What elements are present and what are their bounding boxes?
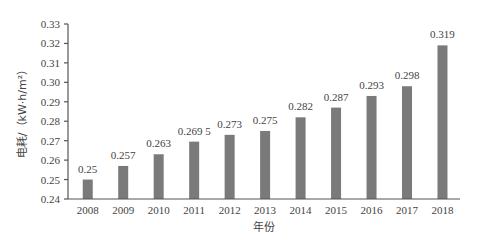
bar-2009 — [118, 166, 128, 199]
x-axis-ticks: 2008200920102011201220132014201520162017… — [77, 204, 454, 216]
y-axis-title: 电耗/（kW·h/m²） — [16, 64, 29, 158]
bar-2011 — [189, 142, 199, 199]
bar-2012 — [225, 135, 235, 199]
data-label: 0.263 — [146, 137, 171, 149]
data-label: 0.257 — [111, 149, 136, 161]
y-axis-ticks: 0.240.250.260.270.280.290.300.310.320.33 — [41, 18, 68, 205]
bar-2016 — [367, 96, 377, 199]
x-tick-label: 2008 — [77, 204, 100, 216]
data-label: 0.273 — [217, 118, 242, 130]
data-label: 0.287 — [324, 91, 349, 103]
data-label: 0.293 — [359, 79, 384, 91]
bar-2017 — [402, 86, 412, 199]
data-label: 0.298 — [395, 69, 420, 81]
data-label: 0.275 — [253, 114, 278, 126]
bar-2015 — [331, 108, 341, 199]
bar-2014 — [296, 117, 306, 199]
y-tick-label: 0.32 — [41, 37, 60, 49]
y-tick-label: 0.24 — [41, 193, 61, 205]
x-axis-title: 年份 — [253, 220, 275, 234]
y-tick-label: 0.30 — [41, 76, 61, 88]
x-tick-label: 2014 — [290, 204, 313, 216]
y-tick-label: 0.26 — [41, 154, 61, 166]
bar-chart: 0.240.250.260.270.280.290.300.310.320.33… — [0, 0, 479, 248]
bar-2010 — [154, 154, 164, 199]
x-tick-label: 2013 — [254, 204, 277, 216]
bar-2008 — [83, 180, 93, 199]
data-label: 0.319 — [430, 28, 455, 40]
y-tick-label: 0.31 — [41, 57, 60, 69]
x-tick-label: 2010 — [148, 204, 171, 216]
y-tick-label: 0.27 — [41, 135, 61, 147]
y-tick-label: 0.28 — [41, 115, 61, 127]
bar-2018 — [437, 45, 447, 199]
x-tick-label: 2011 — [183, 204, 205, 216]
data-label: 0.269 5 — [178, 125, 212, 137]
bars: 0.250.2570.2630.269 50.2730.2750.2820.28… — [78, 28, 455, 199]
bar-2013 — [260, 131, 270, 199]
y-tick-label: 0.33 — [41, 18, 61, 30]
x-tick-label: 2012 — [219, 204, 241, 216]
x-tick-label: 2017 — [396, 204, 419, 216]
y-tick-label: 0.29 — [41, 96, 61, 108]
data-label: 0.282 — [288, 100, 313, 112]
x-tick-label: 2009 — [112, 204, 135, 216]
data-label: 0.25 — [78, 163, 98, 175]
x-tick-label: 2018 — [431, 204, 454, 216]
x-tick-label: 2015 — [325, 204, 348, 216]
y-tick-label: 0.25 — [41, 174, 61, 186]
x-tick-label: 2016 — [361, 204, 384, 216]
